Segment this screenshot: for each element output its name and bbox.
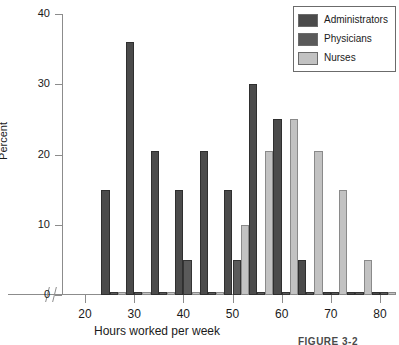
- x-tick: [331, 295, 332, 303]
- bar-nurse-75: [364, 260, 372, 295]
- bar-admin-75: [347, 292, 355, 296]
- bar-phys-70: [331, 292, 339, 296]
- bar-nurse-30: [142, 292, 150, 296]
- bar-phys-40: [183, 260, 191, 295]
- legend-label-nurses: Nurses: [324, 53, 356, 63]
- y-tick-label: 30: [16, 77, 50, 89]
- bar-phys-30: [134, 292, 142, 296]
- y-axis-label: Percent: [0, 122, 9, 160]
- legend-item-physicians[interactable]: Physicians: [298, 30, 391, 48]
- bar-nurse-55: [265, 151, 273, 295]
- x-tick: [282, 295, 283, 303]
- bar-admin-70: [323, 292, 331, 296]
- x-tick-label: 30: [119, 307, 149, 321]
- x-tick-label: 40: [168, 307, 198, 321]
- x-tick: [183, 295, 184, 303]
- x-tick-label: 50: [218, 307, 248, 321]
- bar-phys-65: [306, 292, 314, 296]
- bar-nurse-25: [118, 292, 126, 296]
- legend-swatch-administrators: [298, 14, 318, 27]
- x-tick: [380, 295, 381, 303]
- bar-phys-75: [355, 292, 363, 296]
- bar-nurse-50: [241, 225, 249, 295]
- bar-phys-80: [380, 292, 388, 296]
- bar-nurse-60: [290, 119, 298, 295]
- bar-nurse-80: [388, 292, 396, 296]
- bar-nurse-65: [314, 151, 322, 295]
- bar-admin-55: [249, 84, 257, 295]
- figure-caption: FIGURE 3-2: [258, 336, 398, 345]
- bar-phys-35: [159, 292, 167, 296]
- bar-nurse-40: [192, 292, 200, 296]
- x-axis-label: Hours worked per week: [62, 324, 252, 338]
- figure-container: 010203040 20304050607080 Percent Hours w…: [0, 0, 399, 345]
- bar-admin-40: [175, 190, 183, 295]
- y-tick-label: 40: [16, 7, 50, 19]
- bar-nurse-45: [216, 292, 224, 296]
- bar-admin-25: [101, 190, 109, 295]
- bar-admin-50: [224, 190, 232, 295]
- y-tick: [55, 155, 62, 156]
- y-tick: [55, 225, 62, 226]
- y-tick: [55, 295, 62, 296]
- y-tick: [55, 14, 62, 15]
- bar-admin-30: [126, 42, 134, 295]
- x-tick-label: 60: [267, 307, 297, 321]
- y-tick-label: 20: [16, 148, 50, 160]
- bar-admin-60: [273, 119, 281, 295]
- x-tick: [134, 295, 135, 303]
- bar-admin-80: [372, 292, 380, 296]
- x-tick: [85, 295, 86, 303]
- bar-nurse-35: [167, 292, 175, 296]
- bar-admin-35: [151, 151, 159, 295]
- legend-swatch-nurses: [298, 52, 318, 65]
- bar-admin-65: [298, 260, 306, 295]
- bar-phys-55: [257, 292, 265, 296]
- bar-phys-60: [282, 292, 290, 296]
- legend-label-administrators: Administrators: [324, 15, 388, 25]
- y-tick-label: 10: [16, 218, 50, 230]
- x-tick-label: 70: [316, 307, 346, 321]
- bar-phys-50: [233, 260, 241, 295]
- x-tick: [233, 295, 234, 303]
- bar-admin-45: [200, 151, 208, 295]
- legend-item-nurses[interactable]: Nurses: [298, 49, 391, 67]
- legend: Administrators Physicians Nurses: [293, 6, 396, 72]
- x-tick-label: 80: [365, 307, 395, 321]
- legend-label-physicians: Physicians: [324, 34, 372, 44]
- y-tick: [55, 84, 62, 85]
- bar-nurse-70: [339, 190, 347, 295]
- legend-swatch-physicians: [298, 33, 318, 46]
- bar-phys-25: [110, 292, 118, 296]
- legend-item-administrators[interactable]: Administrators: [298, 11, 391, 29]
- bar-phys-45: [208, 292, 216, 296]
- y-tick-label: 0: [16, 288, 50, 300]
- x-tick-label: 20: [70, 307, 100, 321]
